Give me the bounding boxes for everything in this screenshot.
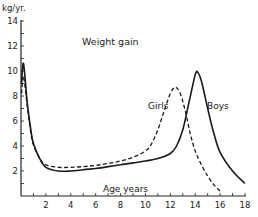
y-tick-label: 6 [13, 116, 18, 126]
x-tick-label: 14 [190, 200, 201, 210]
y-axis-unit-label: kg/yr. [2, 3, 26, 13]
girls-label: Girls [148, 101, 169, 111]
y-tick-label: 4 [13, 141, 18, 151]
x-tick-label: 16 [215, 200, 226, 210]
x-tick-label: 18 [240, 200, 251, 210]
y-tick-label: 10 [7, 66, 18, 76]
boys-label: Boys [207, 101, 229, 111]
x-tick-label: 10 [140, 200, 151, 210]
x-tick-label: 2 [43, 200, 48, 210]
series-lines [22, 63, 245, 191]
x-axis-label: Age years [103, 184, 148, 194]
x-tick-label: 8 [118, 200, 123, 210]
boys-curve [22, 63, 245, 183]
y-tick-label: 8 [13, 91, 18, 101]
y-tick-label: 2 [13, 166, 18, 176]
y-tick-label: 12 [7, 41, 18, 51]
x-tick-label: 4 [68, 200, 73, 210]
y-tick-label: 14 [7, 16, 18, 26]
chart-title: Weight gain [82, 36, 139, 47]
x-tick-label: 12 [165, 200, 176, 210]
x-tick-label: 6 [93, 200, 98, 210]
weight-gain-chart: 246810121424681012141618 kg/yr. Weight g… [0, 0, 258, 217]
